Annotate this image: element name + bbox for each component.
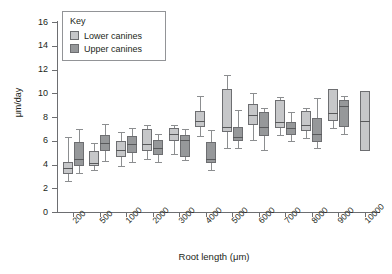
legend-title: Key [70,16,159,27]
y-tick-label: 6 [22,136,48,145]
chart-root: 0246810121416 20050010002000300040005000… [0,0,392,274]
y-axis-label: μm/day [14,63,23,143]
legend: Key Lower canines Upper canines [62,11,166,61]
legend-swatch-lower-canines [70,31,79,40]
y-tick-label: 12 [22,65,48,74]
y-tick-label: 8 [22,113,48,122]
legend-swatch-upper-canines [70,44,79,53]
y-tick-label: 2 [22,184,48,193]
legend-label-upper-canines: Upper canines [84,44,142,54]
legend-item-lower-canines: Lower canines [70,29,159,42]
y-tick-label: 14 [22,41,48,50]
legend-item-upper-canines: Upper canines [70,42,159,55]
y-tick-mark [52,212,58,213]
y-tick-label: 0 [22,208,48,217]
y-tick-label: 10 [22,89,48,98]
legend-label-lower-canines: Lower canines [84,31,142,41]
x-axis-label: Root length (μm) [0,252,392,262]
y-tick-label: 4 [22,160,48,169]
median-line [360,121,370,122]
y-tick-label: 16 [22,18,48,27]
